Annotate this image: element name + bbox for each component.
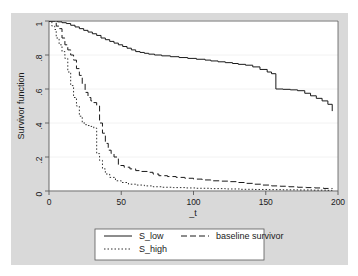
x-tick-label: 150 — [259, 197, 273, 207]
y-axis-title: Survivor function — [16, 72, 26, 139]
x-tick-label: 0 — [47, 197, 52, 207]
legend-label-s-high: S_high — [139, 244, 167, 254]
plot-area-background — [49, 21, 338, 191]
x-tick-label: 200 — [331, 197, 345, 207]
chart-legend: S_lowbaseline survivorS_high — [95, 229, 284, 260]
y-tick-label: .4 — [34, 122, 44, 129]
x-tick-label: 100 — [186, 197, 200, 207]
legend-label-baseline-survivor: baseline survivor — [216, 231, 284, 241]
x-tick-label: 50 — [117, 197, 127, 207]
y-tick-label: .8 — [34, 54, 44, 61]
legend-label-s-low: S_low — [139, 231, 164, 241]
y-tick-label: 1 — [34, 21, 44, 26]
y-tick-label: .2 — [34, 156, 44, 163]
y-tick-label: .6 — [34, 88, 44, 95]
survivor-function-chart: 0.2.4.6.81 050100150200 Survivor functio… — [0, 0, 358, 276]
y-tick-label: 0 — [34, 191, 44, 196]
x-axis-title: _t — [188, 208, 197, 218]
stata-graph-figure: 0.2.4.6.81 050100150200 Survivor functio… — [0, 0, 358, 276]
